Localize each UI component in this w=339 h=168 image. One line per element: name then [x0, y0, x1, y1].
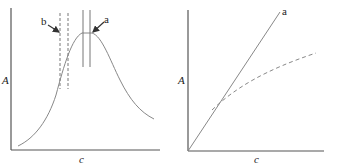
right-x-label: c: [254, 153, 259, 165]
left-plot: b a A c: [1, 8, 160, 165]
left-x-label: c: [79, 153, 84, 165]
linear-line-a: [188, 12, 280, 151]
left-y-label: A: [1, 74, 9, 86]
arrow-a-icon: [93, 22, 104, 32]
right-y-label: A: [177, 74, 185, 86]
bell-curve: [18, 33, 154, 146]
figure: b a A c a A c: [0, 0, 339, 168]
dashed-deviation-curve: [212, 53, 316, 110]
label-a: a: [104, 13, 109, 25]
right-plot: a A c: [177, 5, 324, 165]
right-label-a: a: [282, 5, 287, 17]
arrow-b-icon: [48, 25, 59, 32]
label-b: b: [41, 15, 47, 27]
